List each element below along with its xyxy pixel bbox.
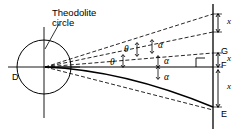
angle-label-alpha-upper: α <box>158 40 163 50</box>
theodolite-circle-label: Theodolite circle <box>52 8 96 29</box>
point-label-e: E <box>221 110 227 120</box>
dimension-label-top: x <box>227 17 231 27</box>
theodolite-diagram: Theodolite circle D G F E θ θ α α α x x … <box>0 0 252 133</box>
theta-upper-tick <box>135 43 139 57</box>
right-angle-marker <box>196 58 205 67</box>
angle-label-alpha-lower: α <box>164 72 169 82</box>
ray-dashed-4 <box>45 67 213 110</box>
ray-dashed-2 <box>45 32 213 67</box>
dimension-arrow-top <box>213 14 222 33</box>
angle-label-alpha-middle: α <box>164 56 169 66</box>
alpha-upper-tick <box>150 40 154 54</box>
dimension-label-bottom: x <box>227 82 231 92</box>
point-label-f: F <box>221 61 227 71</box>
angle-label-theta-upper: θ <box>124 44 129 54</box>
alpha-lower-tick <box>156 67 160 80</box>
diagram-canvas <box>0 0 252 133</box>
angle-label-theta-lower: θ <box>110 57 115 67</box>
dimension-label-middle: x <box>227 54 231 64</box>
dimension-arrow-bottom <box>213 70 222 108</box>
alpha-middle-tick <box>156 56 160 68</box>
point-label-d: D <box>12 73 19 83</box>
